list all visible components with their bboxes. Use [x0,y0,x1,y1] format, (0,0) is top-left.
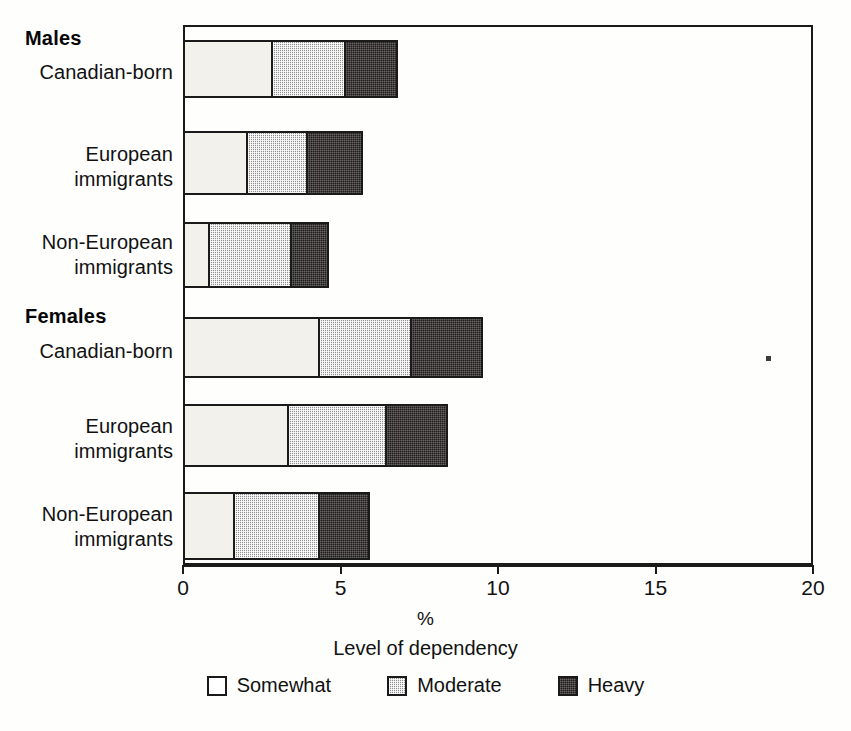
x-axis-tick-label-5: 5 [311,576,371,600]
bar-males-non-european-immigrants[interactable] [183,222,329,288]
legend-item-moderate[interactable]: Moderate [387,674,502,697]
legend-label-moderate: Moderate [417,674,502,697]
legend-label-somewhat: Somewhat [237,674,332,697]
category-label-males-canadian-born: Canadian-born [39,60,173,85]
x-axis-tick-0 [182,565,184,574]
category-label-females-non-european: Non-European immigrants [42,502,173,552]
legend-swatch-heavy-icon [558,676,578,696]
legend: Somewhat Moderate Heavy [0,674,851,697]
legend-swatch-moderate-icon [387,676,407,696]
bar-segment-somewhat [185,42,273,96]
bar-segment-somewhat [185,406,289,465]
x-axis-tick-label-20: 20 [783,576,843,600]
x-axis-tick-label-10: 10 [468,576,528,600]
bar-segment-heavy [320,494,367,558]
chart-page: Males Canadian-born European immigrants … [0,0,851,731]
bar-females-european-immigrants[interactable] [183,404,448,467]
bar-segment-heavy [308,133,362,193]
x-axis-tick-10 [497,565,499,574]
bar-segment-heavy [387,406,447,465]
x-axis-unit-label: % [0,608,851,630]
x-axis-tick-label-0: 0 [153,576,213,600]
category-label-males-non-european: Non-European immigrants [42,230,173,280]
bar-segment-moderate [320,319,411,376]
category-label-males-european: European immigrants [74,142,173,192]
bar-males-canadian-born[interactable] [183,40,398,98]
x-axis-tick-20 [812,565,814,574]
category-label-females-european: European immigrants [74,414,173,464]
bar-segment-moderate [235,494,320,558]
bar-segment-heavy [412,319,481,376]
bar-segment-somewhat [185,133,248,193]
scan-artifact-speck [766,356,771,361]
bar-males-european-immigrants[interactable] [183,131,363,195]
legend-label-heavy: Heavy [588,674,645,697]
legend-item-heavy[interactable]: Heavy [558,674,645,697]
plot-area-frame [183,25,813,565]
bar-segment-somewhat [185,224,210,286]
legend-item-somewhat[interactable]: Somewhat [207,674,332,697]
bar-segment-moderate [289,406,387,465]
group-label-males: Males [25,27,82,50]
bar-segment-moderate [248,133,308,193]
x-axis-tick-5 [340,565,342,574]
bar-segment-somewhat [185,494,235,558]
bar-segment-heavy [292,224,327,286]
category-label-females-canadian-born: Canadian-born [39,339,173,364]
bar-segment-heavy [346,42,396,96]
bar-segment-somewhat [185,319,320,376]
x-axis-tick-15 [655,565,657,574]
x-axis-tick-label-15: 15 [626,576,686,600]
bar-females-canadian-born[interactable] [183,317,483,378]
bar-segment-moderate [273,42,345,96]
bar-females-non-european-immigrants[interactable] [183,492,370,560]
bar-segment-moderate [210,224,292,286]
x-axis-title: Level of dependency [0,637,851,660]
legend-swatch-somewhat-icon [207,676,227,696]
group-label-females: Females [25,305,106,328]
